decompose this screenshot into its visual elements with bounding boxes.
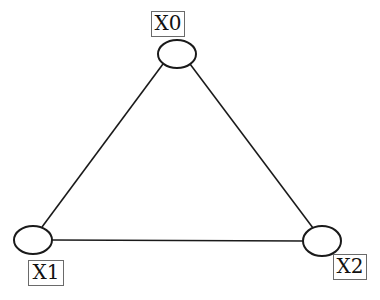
graph-diagram [0,0,380,300]
edge-x0-x1 [42,64,163,227]
edge-x1-x2 [52,240,304,241]
node-x1 [14,226,52,254]
node-label-x2: X2 [333,254,367,280]
node-x0 [158,40,196,68]
node-label-x0: X0 [151,11,185,37]
edge-x0-x2 [190,64,313,228]
node-label-x1: X1 [28,260,64,286]
node-x2 [303,226,341,256]
